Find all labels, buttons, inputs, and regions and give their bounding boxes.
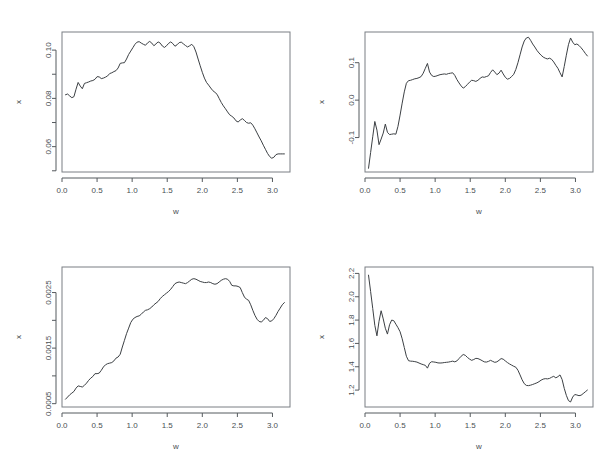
y-tick-label: 1.6 xyxy=(347,337,356,349)
x-tick-label: 1.0 xyxy=(127,186,139,195)
data-series-line xyxy=(369,275,588,402)
y-axis-title: x xyxy=(317,335,326,339)
y-tick-label: 0.10 xyxy=(44,42,53,58)
y-tick-label: 0.0025 xyxy=(44,280,53,305)
data-series-line xyxy=(66,41,285,158)
y-tick-label: 0.06 xyxy=(44,138,53,154)
plot-panel-top-right: 0.00.51.01.52.02.53.0w-0.10.00.1x xyxy=(303,0,606,234)
y-tick-label: 0.1 xyxy=(347,57,356,69)
x-tick-label: 2.0 xyxy=(500,421,512,430)
plot-panel-top-left: 0.00.51.01.52.02.53.0w0.060.080.10x xyxy=(0,0,303,234)
x-tick-label: 1.0 xyxy=(430,421,442,430)
y-tick-label: 0.0005 xyxy=(44,391,53,416)
y-tick-label: 0.08 xyxy=(44,90,53,106)
x-tick-label: 2.0 xyxy=(500,186,512,195)
plot-svg: 0.00.51.01.52.02.53.0w1.21.41.61.82.02.2… xyxy=(303,235,606,469)
y-tick-label: 2.0 xyxy=(347,291,356,303)
data-series-line xyxy=(369,37,588,168)
x-tick-label: 1.5 xyxy=(465,186,477,195)
x-tick-label: 2.0 xyxy=(197,186,209,195)
x-tick-label: 0.5 xyxy=(395,421,407,430)
x-tick-label: 3.0 xyxy=(570,186,582,195)
x-tick-label: 1.0 xyxy=(430,186,442,195)
x-tick-label: 2.5 xyxy=(232,421,244,430)
x-tick-label: 0.5 xyxy=(92,186,104,195)
x-tick-label: 0.5 xyxy=(395,186,407,195)
plot-svg: 0.00.51.01.52.02.53.0w0.00050.00150.0025… xyxy=(0,235,303,469)
y-axis-title: x xyxy=(14,100,23,104)
x-tick-label: 2.5 xyxy=(535,421,547,430)
plot-panel-bottom-left: 0.00.51.01.52.02.53.0w0.00050.00150.0025… xyxy=(0,235,303,469)
y-tick-label: 1.4 xyxy=(347,361,356,373)
x-tick-label: 3.0 xyxy=(570,421,582,430)
four-panel-figure: 0.00.51.01.52.02.53.0w0.060.080.10x 0.00… xyxy=(0,0,606,469)
x-tick-label: 3.0 xyxy=(267,186,279,195)
x-axis-title: w xyxy=(172,442,179,451)
plot-panel-bottom-right: 0.00.51.01.52.02.53.0w1.21.41.61.82.02.2… xyxy=(303,235,606,469)
plot-box xyxy=(365,32,593,172)
x-tick-label: 0.0 xyxy=(359,186,371,195)
y-tick-label: -0.1 xyxy=(347,130,356,144)
x-tick-label: 1.5 xyxy=(465,421,477,430)
y-axis-title: x xyxy=(14,335,23,339)
x-tick-label: 0.0 xyxy=(359,421,371,430)
x-tick-label: 3.0 xyxy=(267,421,279,430)
y-tick-label: 0.0 xyxy=(347,94,356,106)
x-tick-label: 1.5 xyxy=(162,186,174,195)
plot-box xyxy=(62,32,290,172)
plot-svg: 0.00.51.01.52.02.53.0w-0.10.00.1x xyxy=(303,0,606,234)
plot-box xyxy=(62,267,290,407)
x-tick-label: 1.0 xyxy=(127,421,139,430)
y-tick-label: 1.8 xyxy=(347,314,356,326)
plot-box xyxy=(365,267,593,407)
y-tick-label: 1.2 xyxy=(347,384,356,396)
x-tick-label: 2.5 xyxy=(232,186,244,195)
x-axis-title: w xyxy=(475,442,482,451)
x-tick-label: 0.0 xyxy=(56,186,68,195)
data-series-line xyxy=(66,279,285,400)
y-tick-label: 2.2 xyxy=(347,267,356,279)
x-tick-label: 0.5 xyxy=(92,421,104,430)
x-tick-label: 2.0 xyxy=(197,421,209,430)
x-axis-title: w xyxy=(475,207,482,216)
x-axis-title: w xyxy=(172,207,179,216)
x-tick-label: 1.5 xyxy=(162,421,174,430)
y-tick-label: 0.0015 xyxy=(44,335,53,360)
x-tick-label: 0.0 xyxy=(56,421,68,430)
x-tick-label: 2.5 xyxy=(535,186,547,195)
y-axis-title: x xyxy=(317,100,326,104)
plot-svg: 0.00.51.01.52.02.53.0w0.060.080.10x xyxy=(0,0,303,234)
